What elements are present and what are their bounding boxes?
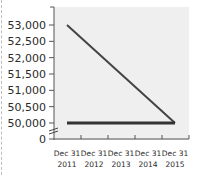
x-tick-label-year: 2011 xyxy=(57,160,76,169)
y-tick-label: 51,500 xyxy=(8,68,47,81)
y-tick-label: 50,000 xyxy=(8,117,47,130)
y-tick-label: 51,000 xyxy=(8,84,47,97)
line-chart: 050,00050,50051,00051,50052,00052,50053,… xyxy=(0,0,199,175)
y-axis: 050,00050,50051,00051,50052,00052,50053,… xyxy=(8,7,59,146)
x-tick-label: Dec 31 xyxy=(162,149,189,158)
y-tick-label: 52,500 xyxy=(8,35,47,48)
x-tick-label-year: 2012 xyxy=(84,160,103,169)
x-tick-label-year: 2015 xyxy=(165,160,184,169)
y-tick-label: 52,000 xyxy=(8,52,47,65)
x-tick-label: Dec 31 xyxy=(54,149,81,158)
x-tick-label: Dec 31 xyxy=(135,149,162,158)
x-tick-label-year: 2013 xyxy=(111,160,130,169)
x-tick-label-year: 2014 xyxy=(138,160,157,169)
x-axis: Dec 312011Dec 312012Dec 312013Dec 312014… xyxy=(54,135,189,169)
y-tick-label: 50,500 xyxy=(8,101,47,114)
y-tick-label: 0 xyxy=(39,133,46,146)
x-tick-label: Dec 31 xyxy=(108,149,135,158)
x-tick-label: Dec 31 xyxy=(81,149,108,158)
y-tick-label: 53,000 xyxy=(8,19,47,32)
